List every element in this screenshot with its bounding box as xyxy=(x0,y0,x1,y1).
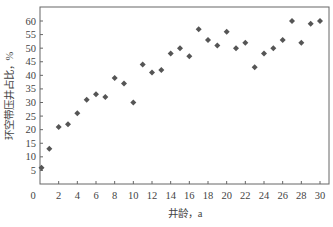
y-tick-label: 30 xyxy=(26,97,37,108)
data-point-marker xyxy=(140,61,146,67)
data-point-marker xyxy=(214,42,220,48)
x-tick-label: 14 xyxy=(165,190,176,201)
y-axis-title: 环空带压井占比，% xyxy=(3,51,15,140)
data-point-marker xyxy=(242,40,248,46)
data-point-marker xyxy=(261,51,267,57)
x-axis-title: 井龄，a xyxy=(168,207,203,219)
data-point-marker xyxy=(186,53,192,59)
y-tick-label: 10 xyxy=(26,151,37,162)
y-tick-label: 45 xyxy=(26,56,37,67)
x-tick-label: 18 xyxy=(203,190,214,201)
data-point-marker xyxy=(102,94,108,100)
data-point-marker xyxy=(130,100,136,106)
data-point-marker xyxy=(233,45,239,51)
y-tick-label: 55 xyxy=(26,29,37,40)
data-point-marker xyxy=(158,67,164,73)
data-point-marker xyxy=(93,91,99,97)
data-point-marker xyxy=(224,29,230,35)
x-tick-label: 24 xyxy=(259,190,270,201)
scatter-chart: 51015202530354045505560 0246810121416182… xyxy=(0,0,333,227)
x-tick-label: 0 xyxy=(30,190,35,201)
y-tick-label: 35 xyxy=(26,83,37,94)
data-point-marker xyxy=(317,18,323,24)
plot-frame xyxy=(40,7,329,184)
x-tick-label: 30 xyxy=(315,190,326,201)
data-point-marker xyxy=(149,70,155,76)
x-tick-label: 10 xyxy=(128,190,139,201)
data-point-marker xyxy=(84,97,90,103)
x-tick-label: 26 xyxy=(277,190,288,201)
data-points xyxy=(39,18,324,171)
x-tick-label: 22 xyxy=(240,190,251,201)
x-tick-label: 8 xyxy=(112,190,117,201)
data-point-marker xyxy=(112,75,118,81)
data-point-marker xyxy=(168,51,174,57)
data-point-marker xyxy=(308,21,314,27)
data-point-marker xyxy=(46,146,52,152)
data-point-marker xyxy=(56,124,62,130)
x-tick-label: 16 xyxy=(184,190,195,201)
data-point-marker xyxy=(39,165,45,171)
data-point-marker xyxy=(74,110,80,116)
data-point-marker xyxy=(289,18,295,24)
data-point-marker xyxy=(205,37,211,43)
y-tick-label: 20 xyxy=(26,124,37,135)
y-tick-label: 5 xyxy=(31,165,36,176)
y-tick-label: 40 xyxy=(26,70,37,81)
y-tick-label: 50 xyxy=(26,43,37,54)
x-tick-label: 6 xyxy=(93,190,98,201)
data-point-marker xyxy=(252,64,258,70)
data-point-marker xyxy=(280,37,286,43)
y-tick-label: 25 xyxy=(26,111,37,122)
data-point-marker xyxy=(298,40,304,46)
data-point-marker xyxy=(196,26,202,32)
y-tick-label: 60 xyxy=(26,16,37,27)
x-tick-label: 2 xyxy=(56,190,61,201)
data-point-marker xyxy=(121,80,127,86)
data-point-marker xyxy=(177,45,183,51)
x-tick-label: 12 xyxy=(147,190,158,201)
data-point-marker xyxy=(65,121,71,127)
data-point-marker xyxy=(270,45,276,51)
x-tick-label: 20 xyxy=(221,190,232,201)
x-tick-label: 28 xyxy=(296,190,307,201)
x-tick-label: 4 xyxy=(75,190,81,201)
y-tick-label: 15 xyxy=(26,138,37,149)
